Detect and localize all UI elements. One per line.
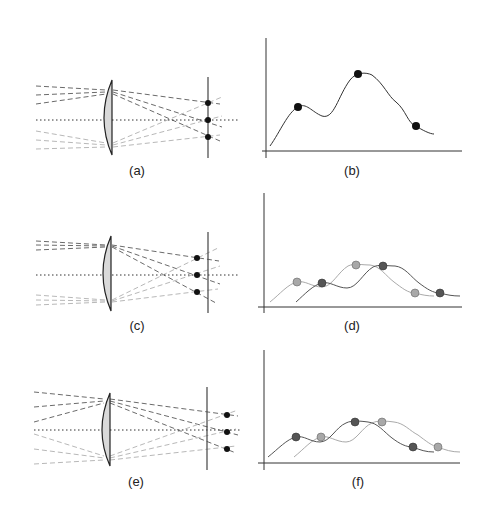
upper-rays-c: [36, 241, 220, 303]
peak-dot-dark: [436, 289, 444, 297]
focus-dot: [205, 117, 211, 123]
focus-dot: [194, 255, 200, 261]
peak-dot-light: [434, 443, 442, 451]
peak-dot-light: [317, 433, 325, 441]
peak-dot-light: [411, 289, 419, 297]
focus-dot: [205, 100, 211, 106]
peak-dot-dark: [351, 418, 359, 426]
panel-b-profile: [262, 38, 462, 158]
focus-dot: [205, 134, 211, 140]
figure-canvas: [0, 0, 486, 519]
peak-dot: [354, 70, 362, 78]
panel-label-e: (e): [128, 474, 144, 489]
peak-dot-light: [352, 261, 360, 269]
peak-dot-light: [378, 418, 386, 426]
peak-dot-dark: [409, 443, 417, 451]
lens-e: [102, 393, 110, 466]
panel-label-f: (f): [352, 474, 364, 489]
peak-dot: [294, 103, 302, 111]
panel-label-b: (b): [344, 163, 360, 178]
panel-label-a: (a): [129, 163, 145, 178]
peak-dot-dark: [379, 262, 387, 270]
peak-dot-light: [293, 278, 301, 286]
panel-c-optics: [36, 232, 240, 313]
focus-dot: [194, 289, 200, 295]
focus-dot: [194, 272, 200, 278]
focus-dot: [224, 446, 230, 452]
peak-dot-dark: [292, 433, 300, 441]
focus-dot: [224, 429, 230, 435]
panel-e-optics: [34, 387, 240, 470]
focus-dot: [224, 412, 230, 418]
peak-dot-dark: [318, 279, 326, 287]
lower-rays-a: [36, 97, 222, 149]
panel-label-d: (d): [344, 318, 360, 333]
peak-dot: [412, 122, 420, 130]
lens-a: [104, 80, 112, 155]
upper-rays-a: [36, 86, 222, 141]
panel-f-profile: [258, 350, 460, 470]
panel-label-c: (c): [129, 318, 144, 333]
panel-a-optics: [36, 77, 240, 158]
panel-d-profile: [258, 193, 462, 313]
intensity-curve-b: [270, 73, 434, 146]
